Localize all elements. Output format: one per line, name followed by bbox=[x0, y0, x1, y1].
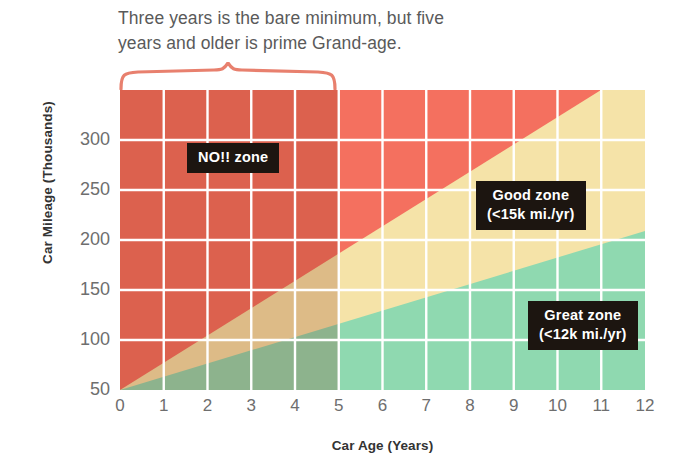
x-tick-3: 3 bbox=[231, 396, 271, 416]
annotation-line-2: years and older is prime Grand-age. bbox=[118, 31, 548, 56]
x-tick-1: 1 bbox=[144, 396, 184, 416]
zone-label-no: NO!! zone bbox=[187, 143, 279, 173]
chart-page: Three years is the bare minimum, but fiv… bbox=[0, 0, 685, 473]
annotation-note: Three years is the bare minimum, but fiv… bbox=[118, 6, 548, 56]
y-tick-150: 150 bbox=[50, 279, 110, 300]
y-tick-300: 300 bbox=[50, 129, 110, 150]
zone-label-great: Great zone (<12k mi./yr) bbox=[528, 301, 638, 350]
x-tick-0: 0 bbox=[100, 396, 140, 416]
x-tick-7: 7 bbox=[406, 396, 446, 416]
x-axis-title: Car Age (Years) bbox=[120, 438, 645, 453]
y-tick-250: 250 bbox=[50, 179, 110, 200]
y-tick-100: 100 bbox=[50, 329, 110, 350]
x-tick-12: 12 bbox=[625, 396, 665, 416]
curly-brace-icon bbox=[118, 62, 338, 90]
x-tick-10: 10 bbox=[538, 396, 578, 416]
y-tick-200: 200 bbox=[50, 229, 110, 250]
x-tick-5: 5 bbox=[319, 396, 359, 416]
x-tick-2: 2 bbox=[188, 396, 228, 416]
zone-label-good: Good zone (<15k mi./yr) bbox=[476, 181, 586, 230]
x-tick-11: 11 bbox=[581, 396, 621, 416]
annotation-line-1: Three years is the bare minimum, but fiv… bbox=[118, 6, 548, 31]
x-tick-8: 8 bbox=[450, 396, 490, 416]
x-tick-6: 6 bbox=[363, 396, 403, 416]
x-tick-4: 4 bbox=[275, 396, 315, 416]
x-tick-9: 9 bbox=[494, 396, 534, 416]
